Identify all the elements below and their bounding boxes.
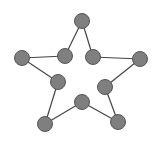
graph-node-right [133,52,148,67]
star-graph-diagram [0,0,159,143]
graph-node-inner-upper-left [58,49,73,64]
graph-node-inner-upper-right [86,50,101,65]
node-layer [15,14,148,132]
graph-node-left [15,51,30,66]
graph-node-bottom-right [111,115,126,130]
graph-node-inner-mid-left [51,75,66,90]
graph-node-bottom-left [38,117,53,132]
graph-node-inner-mid-right [98,80,113,95]
graph-node-inner-bottom [75,95,90,110]
graph-node-top [75,14,90,29]
